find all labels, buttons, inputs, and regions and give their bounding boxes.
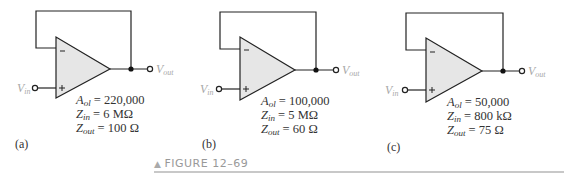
- output-terminal: [147, 66, 152, 71]
- circuit-diagrams: [0, 0, 564, 178]
- voltage-follower-b: [216, 12, 338, 100]
- vin-label-b: Vin: [200, 83, 214, 95]
- output-node: [500, 68, 505, 73]
- vout-label-c: Vout: [528, 65, 546, 77]
- voltage-follower-c: [402, 13, 524, 102]
- output-terminal: [333, 67, 338, 72]
- aol-spec-a: Aol = 220,000: [76, 93, 145, 107]
- zin-spec-a: Zin = 6 MΩ: [76, 107, 133, 121]
- output-node: [313, 67, 318, 72]
- input-terminal: [402, 87, 407, 92]
- vin-label-a: Vin: [17, 82, 31, 94]
- vout-label-a: Vout: [156, 63, 174, 75]
- voltage-follower-a: [32, 11, 152, 98]
- zout-spec-c: Zout = 75 Ω: [447, 123, 504, 137]
- caption-rule: [154, 171, 564, 173]
- opamp-triangle: [426, 38, 482, 102]
- zin-spec-c: Zin = 800 kΩ: [447, 109, 512, 123]
- zout-spec-b: Zout = 60 Ω: [261, 122, 318, 136]
- figure-caption: ▲FIGURE 12–69: [154, 157, 248, 170]
- output-node: [128, 66, 133, 71]
- input-terminal: [216, 86, 221, 91]
- vin-label-c: Vin: [385, 84, 399, 96]
- input-terminal: [32, 85, 37, 90]
- part-label-b: (b): [202, 137, 216, 152]
- opamp-triangle: [56, 37, 110, 98]
- zout-spec-a: Zout = 100 Ω: [76, 121, 139, 135]
- figure-number: FIGURE 12–69: [164, 157, 248, 170]
- vout-label-b: Vout: [342, 64, 360, 76]
- opamp-triangle: [240, 37, 295, 100]
- zin-spec-b: Zin = 5 MΩ: [261, 108, 318, 122]
- part-label-a: (a): [15, 137, 28, 152]
- aol-spec-c: Aol = 50,000: [447, 95, 509, 109]
- aol-spec-b: Aol = 100,000: [261, 94, 330, 108]
- triangle-marker-icon: ▲: [154, 159, 161, 169]
- output-terminal: [519, 68, 524, 73]
- part-label-c: (c): [387, 140, 400, 155]
